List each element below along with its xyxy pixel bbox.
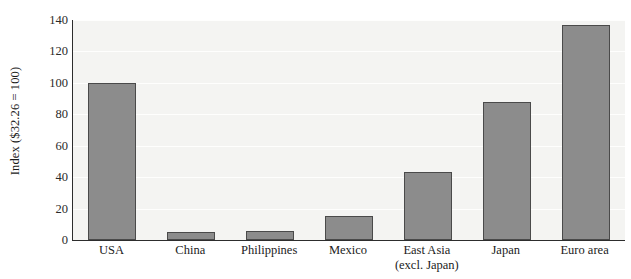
y-axis-tick-label: 80 <box>56 107 69 122</box>
bar <box>483 102 531 240</box>
x-axis-category-label: Japan <box>491 243 519 258</box>
y-axis-title: Index ($32.26 = 100) <box>4 1 26 241</box>
x-axis-category-label: Mexico <box>329 243 367 258</box>
x-axis-category-label: USA <box>99 243 124 258</box>
x-axis-category-label: China <box>175 243 205 258</box>
x-axis-category-label: Philippines <box>241 243 297 258</box>
y-axis-tick-labels: 020406080100120140 <box>26 12 68 248</box>
bar <box>404 172 452 240</box>
y-axis-tick-label: 120 <box>49 44 68 59</box>
bar <box>562 25 610 240</box>
x-axis-category-label-line: (excl. Japan) <box>395 258 459 273</box>
bar <box>325 216 373 240</box>
x-axis-category-label-line: USA <box>99 243 124 257</box>
bar-series <box>73 20 625 240</box>
y-axis-tick-label: 60 <box>56 138 69 153</box>
bar-chart: Index ($32.26 = 100) 020406080100120140 … <box>0 0 631 279</box>
bar <box>167 232 215 240</box>
x-axis-category-label-line: Philippines <box>241 243 297 257</box>
x-axis-category-label-line: Euro area <box>560 243 608 257</box>
x-axis-category-label-line: China <box>175 243 205 257</box>
x-axis-category-label: East Asia(excl. Japan) <box>395 243 459 273</box>
plot-area <box>72 20 625 241</box>
bar <box>246 231 294 240</box>
y-axis-tick-label: 40 <box>56 170 69 185</box>
y-axis-tick-label: 100 <box>49 75 68 90</box>
x-axis-category-labels: USAChinaPhilippinesMexicoEast Asia(excl.… <box>72 243 624 279</box>
bar <box>88 83 136 240</box>
x-axis-category-label-line: East Asia <box>403 243 450 257</box>
x-axis-category-label: Euro area <box>560 243 608 258</box>
x-axis-category-label-line: Mexico <box>329 243 367 257</box>
x-axis-category-label-line: Japan <box>491 243 519 257</box>
y-axis-tick-label: 0 <box>62 233 68 248</box>
y-axis-tick-label: 20 <box>56 201 69 216</box>
y-axis-tick-label: 140 <box>49 13 68 28</box>
